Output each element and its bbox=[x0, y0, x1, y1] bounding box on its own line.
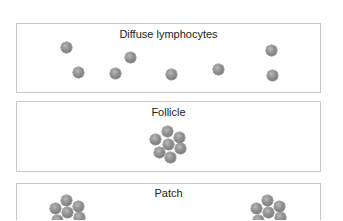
lymphocyte-cell-icon bbox=[73, 67, 84, 78]
lymphocyte-cell-icon bbox=[73, 201, 84, 212]
lymphocyte-cell-icon bbox=[267, 70, 278, 81]
lymphocyte-cell-icon bbox=[154, 147, 165, 158]
lymphocyte-cell-icon bbox=[166, 69, 177, 80]
lymphocyte-cell-icon bbox=[266, 45, 277, 56]
lymphocyte-cell-icon bbox=[162, 126, 173, 137]
lymphocyte-cell-icon bbox=[163, 139, 174, 150]
lymphocyte-cell-icon bbox=[251, 203, 262, 214]
panel-title: Diffuse lymphocytes bbox=[17, 28, 320, 40]
lymphocyte-cell-icon bbox=[61, 42, 72, 53]
lymphocyte-cell-icon bbox=[253, 215, 264, 221]
lymphocyte-cell-icon bbox=[175, 143, 186, 154]
lymphocyte-cell-icon bbox=[213, 64, 224, 75]
lymphocyte-cell-icon bbox=[174, 132, 185, 143]
panel-diffuse-lymphocytes: Diffuse lymphocytes bbox=[16, 23, 321, 93]
lymphocyte-cell-icon bbox=[274, 201, 285, 212]
lymphocyte-cell-icon bbox=[50, 203, 61, 214]
lymphocyte-cell-icon bbox=[125, 52, 136, 63]
lymphocyte-cell-icon bbox=[165, 152, 176, 163]
lymphocyte-cell-icon bbox=[52, 215, 63, 221]
lymphocyte-cell-icon bbox=[275, 212, 286, 221]
lymphocyte-cell-icon bbox=[263, 207, 274, 218]
lymphocyte-cell-icon bbox=[150, 134, 161, 145]
lymphocyte-cell-icon bbox=[262, 195, 273, 206]
lymphocyte-cell-icon bbox=[110, 68, 121, 79]
lymphocyte-cell-icon bbox=[62, 207, 73, 218]
lymphocyte-cell-icon bbox=[61, 195, 72, 206]
lymphocyte-cell-icon bbox=[74, 212, 85, 221]
panel-title: Follicle bbox=[17, 106, 320, 118]
